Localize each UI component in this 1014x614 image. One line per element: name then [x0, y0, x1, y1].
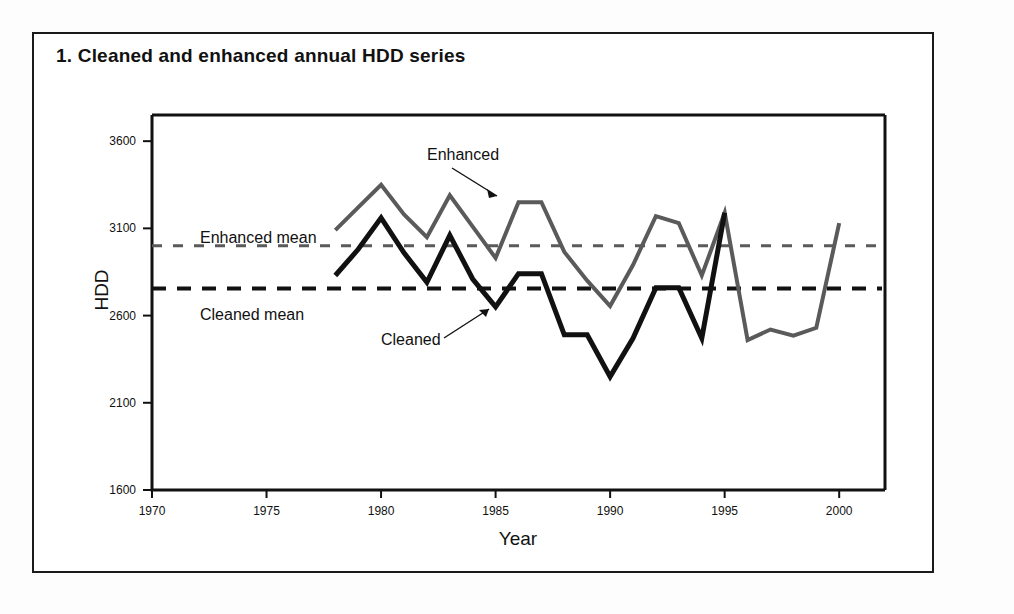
y-tick-label: 2100 — [109, 396, 136, 410]
hdd-line-chart: 16002100260031003600 1970197519801985199… — [0, 0, 1014, 614]
x-tick-label: 1975 — [253, 504, 280, 518]
cleaned-annotation-arrow — [444, 309, 489, 338]
y-tick-label: 3600 — [109, 134, 136, 148]
x-tick-label: 2000 — [826, 504, 853, 518]
chart-container: 16002100260031003600 1970197519801985199… — [0, 0, 1014, 614]
reference-mean-lines — [152, 246, 882, 289]
x-tick-label: 1995 — [711, 504, 738, 518]
x-tick-label: 1970 — [139, 504, 166, 518]
y-tick-label: 1600 — [109, 483, 136, 497]
x-tick-label: 1985 — [482, 504, 509, 518]
cleaned-annotation-label: Cleaned — [381, 331, 441, 348]
page-canvas: 1. Cleaned and enhanced annual HDD serie… — [0, 0, 1014, 614]
y-tick-label: 3100 — [109, 221, 136, 235]
cleaned-mean-label: Cleaned mean — [200, 306, 304, 323]
x-tick-label: 1990 — [597, 504, 624, 518]
plot-axes — [152, 115, 885, 490]
y-axis-title: HDD — [91, 269, 112, 310]
y-axis-ticks: 16002100260031003600 — [109, 134, 152, 497]
y-tick-label: 2600 — [109, 309, 136, 323]
x-axis-ticks: 1970197519801985199019952000 — [139, 490, 853, 518]
series-cleaned — [335, 213, 724, 377]
x-tick-label: 1980 — [368, 504, 395, 518]
enhanced-annotation-arrow — [452, 168, 497, 198]
enhanced-annotation-label: Enhanced — [427, 146, 499, 163]
enhanced-mean-label: Enhanced mean — [200, 229, 317, 246]
x-axis-title: Year — [499, 528, 538, 549]
